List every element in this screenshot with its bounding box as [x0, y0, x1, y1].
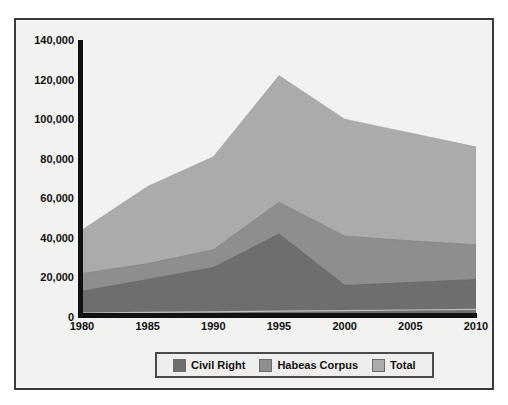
y-tick-label: 100,000	[4, 113, 74, 125]
y-axis-line	[78, 40, 83, 317]
legend-item[interactable]: Total	[372, 359, 415, 372]
y-tick-label: 60,000	[4, 192, 74, 204]
legend-item[interactable]: Habeas Corpus	[259, 359, 358, 372]
legend-swatch-icon	[173, 359, 186, 372]
chart-legend: Civil RightHabeas CorpusTotal	[155, 352, 434, 378]
x-tick-label: 1980	[52, 320, 112, 332]
x-tick-label: 1985	[118, 320, 178, 332]
legend-item[interactable]: Civil Right	[173, 359, 245, 372]
legend-label: Habeas Corpus	[277, 359, 358, 371]
x-axis-line	[78, 313, 477, 318]
legend-swatch-icon	[259, 359, 272, 372]
y-tick-label: 20,000	[4, 271, 74, 283]
legend-label: Civil Right	[191, 359, 245, 371]
x-tick-label: 1995	[249, 320, 309, 332]
y-tick-label: 120,000	[4, 74, 74, 86]
plot-area	[82, 40, 476, 317]
x-tick-label: 2005	[380, 320, 440, 332]
legend-label: Total	[390, 359, 415, 371]
x-tick-label: 2000	[315, 320, 375, 332]
chart-figure: 140,000120,000100,00080,00060,00040,0002…	[0, 0, 508, 405]
y-tick-label: 40,000	[4, 232, 74, 244]
y-tick-label: 140,000	[4, 34, 74, 46]
legend-swatch-icon	[372, 359, 385, 372]
x-tick-label: 2010	[446, 320, 506, 332]
x-tick-label: 1990	[183, 320, 243, 332]
y-axis-tick-labels: 140,000120,000100,00080,00060,00040,0002…	[2, 0, 74, 405]
y-tick-label: 80,000	[4, 153, 74, 165]
stacked-area-svg	[82, 40, 476, 317]
